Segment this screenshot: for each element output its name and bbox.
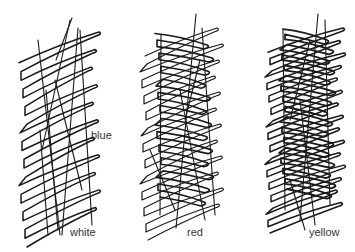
scribble-loop-stroke	[19, 32, 100, 247]
label-red: red	[187, 227, 203, 238]
scribble-middle	[140, 14, 223, 240]
scribble-right	[265, 14, 345, 233]
scribble-figure	[0, 0, 355, 252]
label-white: white	[70, 227, 96, 238]
scribble-loop-stroke	[140, 28, 223, 240]
label-blue: blue	[91, 130, 112, 141]
scribble-line-stroke	[56, 18, 72, 60]
scribble-line-stroke	[38, 40, 60, 235]
scribble-line-stroke	[185, 60, 200, 120]
scribble-left	[19, 18, 100, 247]
scribble-line-stroke	[160, 35, 161, 215]
label-yellow: yellow	[309, 227, 340, 238]
